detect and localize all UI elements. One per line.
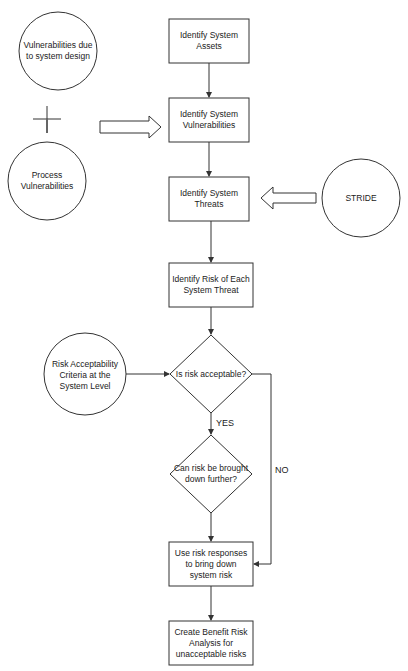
edge-no (252, 374, 271, 564)
plus-symbol (33, 106, 61, 133)
no-label: NO (275, 465, 289, 475)
yes-label: YES (216, 418, 234, 428)
stride-label: STRIDE (330, 190, 392, 206)
is-acceptable-label: Is risk acceptable? (172, 366, 250, 382)
process-vuln-label: Process Vulnerabilities (11, 166, 83, 196)
identify-vulns-label: Identify System Vulnerabilities (171, 104, 247, 136)
identify-threats-label: Identify System Threats (171, 183, 247, 215)
identify-assets-label: Identify System Assets (171, 25, 247, 57)
can-reduce-label: Can risk be brought down further? (172, 461, 250, 487)
benefit-risk-label: Create Benefit Risk Analysis for unaccep… (171, 625, 251, 661)
use-responses-label: Use risk responses to bring down system … (171, 546, 251, 582)
vuln-design-label: Vulnerabilities due to system design (22, 36, 94, 66)
criteria-label: Risk Acceptability Criteria at the Syste… (46, 357, 124, 393)
identify-risk-label: Identify Risk of Each System Threat (171, 269, 251, 301)
hollow-arrow-right (100, 116, 161, 138)
hollow-arrow-left (261, 187, 316, 209)
